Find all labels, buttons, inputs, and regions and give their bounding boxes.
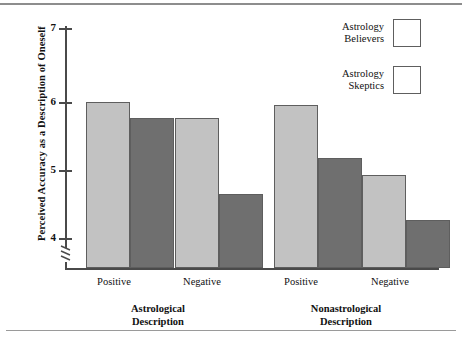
bar-astrological-positive-skeptics <box>130 118 174 268</box>
x-axis-line <box>65 268 439 270</box>
y-axis-line <box>65 26 67 248</box>
legend-swatch-believers <box>393 19 421 47</box>
bar-astrological-negative-believers <box>175 118 219 268</box>
x-group-astrological-line2: Description <box>73 316 243 329</box>
legend-skeptics-line2: Skeptics <box>310 80 384 93</box>
x-label-nonastrological-negative: Negative <box>345 276 435 287</box>
y-tick-label-5: 5 <box>40 163 56 175</box>
bar-astrological-negative-skeptics <box>219 194 263 268</box>
bar-nonastrological-positive-believers <box>274 105 318 268</box>
y-tick-4 <box>59 238 72 240</box>
legend-swatch-skeptics <box>393 66 421 94</box>
legend-label-believers: Astrology Believers <box>310 21 384 46</box>
axis-break-icon <box>58 244 76 266</box>
bar-nonastrological-positive-skeptics <box>318 158 362 268</box>
x-group-astrological-line1: Astrological <box>73 303 243 316</box>
legend-item-believers: Astrology Believers <box>310 19 421 47</box>
legend-skeptics-line1: Astrology <box>310 68 384 81</box>
y-tick-5 <box>59 170 72 172</box>
y-tick-label-7: 7 <box>40 21 56 33</box>
bar-nonastrological-negative-believers <box>362 175 406 268</box>
legend-believers-line2: Believers <box>310 33 384 46</box>
y-tick-6 <box>59 102 72 104</box>
x-label-astrological-negative: Negative <box>157 276 247 287</box>
x-label-nonastrological-positive: Positive <box>256 276 346 287</box>
bar-nonastrological-negative-skeptics <box>406 220 450 268</box>
bar-astrological-positive-believers <box>86 102 130 268</box>
y-tick-7 <box>59 28 72 30</box>
legend-label-skeptics: Astrology Skeptics <box>310 68 384 93</box>
plot-area: 7 6 5 4 Positive Negative Positive Negat… <box>0 0 462 343</box>
legend-item-skeptics: Astrology Skeptics <box>310 66 421 94</box>
y-tick-label-6: 6 <box>40 95 56 107</box>
x-label-astrological-positive: Positive <box>69 276 159 287</box>
x-group-label-nonastrological: Nonastrological Description <box>261 303 431 328</box>
legend-believers-line1: Astrology <box>310 21 384 34</box>
y-tick-label-4: 4 <box>40 231 56 243</box>
x-group-nonastrological-line2: Description <box>261 316 431 329</box>
x-group-nonastrological-line1: Nonastrological <box>261 303 431 316</box>
x-group-label-astrological: Astrological Description <box>73 303 243 328</box>
bar-chart-figure: Perceived Accuracy as a Description of O… <box>0 0 462 343</box>
